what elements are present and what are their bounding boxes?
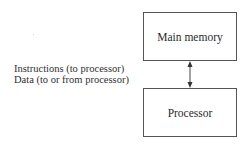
bidirectional-arrow-icon	[185, 61, 195, 88]
processor-label: Processor	[168, 107, 213, 119]
processor-box: Processor	[143, 88, 237, 137]
edge-label-group: Instructions (to processor) Data (to or …	[14, 64, 129, 85]
edge-label-instructions: Instructions (to processor)	[14, 64, 129, 75]
main-memory-box: Main memory	[143, 12, 237, 61]
scan-artifact	[33, 34, 34, 35]
edge-label-data: Data (to or from processor)	[14, 75, 129, 86]
main-memory-label: Main memory	[157, 31, 222, 43]
